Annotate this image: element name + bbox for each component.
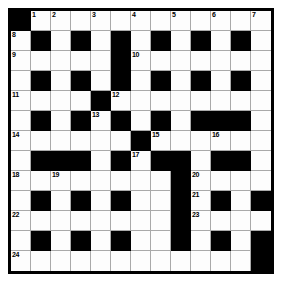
open-square[interactable] (151, 211, 171, 231)
open-square[interactable] (251, 111, 271, 131)
open-square[interactable] (71, 171, 91, 191)
open-square[interactable] (91, 51, 111, 71)
open-square[interactable] (131, 71, 151, 91)
open-square[interactable] (231, 51, 251, 71)
open-square[interactable]: 7 (251, 11, 271, 31)
open-square[interactable] (71, 91, 91, 111)
open-square[interactable]: 4 (131, 11, 151, 31)
open-square[interactable] (91, 191, 111, 211)
open-square[interactable] (91, 251, 111, 271)
open-square[interactable] (51, 71, 71, 91)
open-square[interactable] (11, 111, 31, 131)
open-square[interactable] (91, 231, 111, 251)
open-square[interactable] (251, 51, 271, 71)
open-square[interactable] (251, 131, 271, 151)
open-square[interactable] (191, 51, 211, 71)
open-square[interactable] (231, 131, 251, 151)
open-square[interactable]: 2 (51, 11, 71, 31)
open-square[interactable]: 6 (211, 11, 231, 31)
open-square[interactable] (51, 91, 71, 111)
open-square[interactable]: 19 (51, 171, 71, 191)
open-square[interactable] (211, 71, 231, 91)
open-square[interactable] (71, 51, 91, 71)
open-square[interactable] (131, 111, 151, 131)
open-square[interactable] (171, 251, 191, 271)
open-square[interactable] (51, 211, 71, 231)
open-square[interactable]: 10 (131, 51, 151, 71)
open-square[interactable] (171, 111, 191, 131)
open-square[interactable]: 20 (191, 171, 211, 191)
open-square[interactable] (171, 91, 191, 111)
open-square[interactable] (111, 171, 131, 191)
open-square[interactable] (211, 251, 231, 271)
open-square[interactable] (151, 11, 171, 31)
open-square[interactable] (131, 211, 151, 231)
open-square[interactable]: 5 (171, 11, 191, 31)
open-square[interactable]: 8 (11, 31, 31, 51)
open-square[interactable]: 23 (191, 211, 211, 231)
open-square[interactable] (31, 91, 51, 111)
open-square[interactable] (31, 131, 51, 151)
open-square[interactable]: 22 (11, 211, 31, 231)
open-square[interactable] (211, 91, 231, 111)
open-square[interactable] (151, 251, 171, 271)
open-square[interactable] (71, 131, 91, 151)
open-square[interactable] (251, 71, 271, 91)
open-square[interactable] (11, 71, 31, 91)
open-square[interactable] (11, 191, 31, 211)
open-square[interactable] (251, 91, 271, 111)
open-square[interactable] (231, 211, 251, 231)
open-square[interactable] (71, 211, 91, 231)
open-square[interactable] (11, 231, 31, 251)
open-square[interactable] (231, 91, 251, 111)
open-square[interactable] (91, 151, 111, 171)
open-square[interactable] (91, 71, 111, 91)
open-square[interactable] (111, 11, 131, 31)
open-square[interactable] (151, 171, 171, 191)
open-square[interactable] (251, 31, 271, 51)
open-square[interactable] (251, 171, 271, 191)
open-square[interactable] (211, 211, 231, 231)
open-square[interactable] (51, 191, 71, 211)
open-square[interactable] (151, 91, 171, 111)
open-square[interactable] (191, 91, 211, 111)
open-square[interactable] (131, 251, 151, 271)
open-square[interactable] (91, 171, 111, 191)
open-square[interactable] (191, 251, 211, 271)
open-square[interactable] (131, 171, 151, 191)
open-square[interactable] (231, 231, 251, 251)
open-square[interactable] (131, 31, 151, 51)
open-square[interactable] (191, 11, 211, 31)
open-square[interactable] (211, 31, 231, 51)
open-square[interactable]: 21 (191, 191, 211, 211)
open-square[interactable] (91, 31, 111, 51)
open-square[interactable]: 9 (11, 51, 31, 71)
open-square[interactable] (211, 171, 231, 191)
open-square[interactable] (51, 31, 71, 51)
open-square[interactable]: 13 (91, 111, 111, 131)
open-square[interactable] (31, 51, 51, 71)
open-square[interactable]: 15 (151, 131, 171, 151)
open-square[interactable] (131, 91, 151, 111)
open-square[interactable] (11, 151, 31, 171)
open-square[interactable] (231, 191, 251, 211)
open-square[interactable] (151, 191, 171, 211)
open-square[interactable] (211, 51, 231, 71)
open-square[interactable] (251, 211, 271, 231)
open-square[interactable]: 14 (11, 131, 31, 151)
open-square[interactable] (51, 51, 71, 71)
open-square[interactable]: 17 (131, 151, 151, 171)
open-square[interactable] (231, 251, 251, 271)
open-square[interactable] (171, 31, 191, 51)
open-square[interactable] (71, 251, 91, 271)
open-square[interactable] (71, 11, 91, 31)
open-square[interactable] (191, 151, 211, 171)
open-square[interactable] (91, 131, 111, 151)
open-square[interactable] (111, 131, 131, 151)
open-square[interactable]: 16 (211, 131, 231, 151)
open-square[interactable] (231, 171, 251, 191)
crossword-grid[interactable]: 123456789101112131415161718192021222324 (8, 8, 274, 274)
open-square[interactable] (171, 51, 191, 71)
open-square[interactable] (251, 151, 271, 171)
open-square[interactable]: 12 (111, 91, 131, 111)
